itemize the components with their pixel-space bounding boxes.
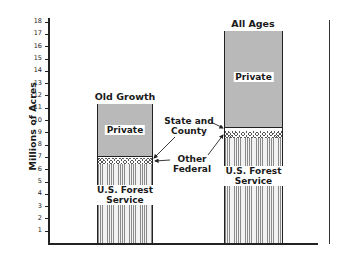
annotation-arrows — [0, 0, 352, 260]
